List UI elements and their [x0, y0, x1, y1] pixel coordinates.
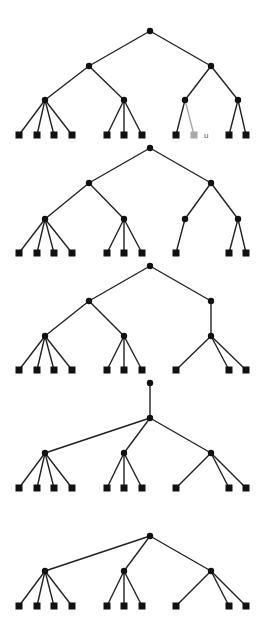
tree-edge	[107, 219, 124, 253]
leaf-node	[16, 367, 23, 374]
leaf-node	[173, 367, 180, 374]
tree-edge	[124, 571, 142, 606]
tree-edge	[107, 336, 124, 370]
tree-edge	[124, 336, 142, 370]
leaf-node	[139, 367, 146, 374]
tree-3	[16, 263, 250, 374]
leaf-node	[243, 250, 250, 257]
tree-edge	[89, 66, 124, 100]
leaf-node	[69, 367, 76, 374]
tree-edge	[229, 219, 238, 253]
leaf-node	[139, 603, 146, 610]
leaf-node	[243, 132, 250, 139]
internal-node	[121, 333, 127, 339]
tree-edge	[124, 219, 142, 253]
tree-edge	[211, 183, 238, 219]
tree-edge	[150, 536, 211, 571]
leaf-node	[226, 367, 233, 374]
leaf-node	[34, 485, 41, 492]
tree-edge	[45, 66, 89, 100]
internal-node	[182, 216, 188, 222]
tree-edge	[124, 536, 150, 571]
tree-edge	[211, 571, 246, 606]
tree-edge	[45, 183, 89, 219]
leaf-node	[104, 485, 111, 492]
tree-edge	[176, 571, 211, 606]
leaf-node	[16, 485, 23, 492]
tree-edge	[238, 100, 246, 135]
internal-node	[235, 97, 241, 103]
leaf-node	[121, 367, 128, 374]
tree-edge	[211, 336, 246, 370]
tree-edge	[211, 336, 229, 370]
tree-edge	[45, 418, 150, 453]
internal-node	[235, 216, 241, 222]
leaf-node	[34, 367, 41, 374]
internal-node	[42, 97, 48, 103]
tree-edge	[89, 148, 150, 183]
tree-5	[16, 533, 250, 610]
tree-edge	[185, 66, 211, 100]
leaf-node	[226, 250, 233, 257]
leaf-node	[69, 132, 76, 139]
leaf-node	[173, 132, 180, 139]
internal-node	[42, 568, 48, 574]
internal-node	[86, 63, 92, 69]
leaf-node	[226, 132, 233, 139]
tree-edge	[229, 100, 238, 135]
leaf-node	[34, 250, 41, 257]
leaf-node	[121, 485, 128, 492]
tree-2	[16, 145, 250, 257]
leaf-node	[121, 603, 128, 610]
tree-edge	[211, 66, 238, 100]
leaf-node	[34, 603, 41, 610]
tree-edge	[45, 301, 89, 336]
tree-edge	[107, 571, 124, 606]
leaf-node	[104, 603, 111, 610]
leaf-node	[139, 132, 146, 139]
internal-node	[208, 298, 214, 304]
tree-edge	[89, 301, 124, 336]
internal-node	[208, 333, 214, 339]
leaf-node	[51, 367, 58, 374]
internal-node	[147, 145, 153, 151]
tree-edge	[89, 183, 124, 219]
internal-node	[182, 97, 188, 103]
internal-node	[121, 568, 127, 574]
tree-edge	[150, 31, 211, 66]
leaf-node	[121, 132, 128, 139]
leaf-node	[173, 250, 180, 257]
tree-edge	[107, 453, 124, 488]
leaf-node	[51, 132, 58, 139]
tree-1: u	[16, 28, 250, 140]
tree-edge	[45, 536, 150, 571]
leaf-node	[51, 603, 58, 610]
internal-node	[147, 533, 153, 539]
leaf-node	[69, 250, 76, 257]
highlighted-leaf-node	[191, 132, 198, 139]
internal-node	[121, 450, 127, 456]
tree-edge	[107, 100, 124, 135]
tree-edge	[89, 266, 150, 301]
internal-node	[86, 298, 92, 304]
tree-edge	[176, 219, 185, 253]
tree-edge	[124, 418, 150, 453]
leaf-node	[104, 132, 111, 139]
leaf-node	[69, 603, 76, 610]
leaf-node	[243, 603, 250, 610]
leaf-node	[104, 250, 111, 257]
internal-node	[147, 380, 153, 386]
internal-node	[121, 216, 127, 222]
tree-edge	[124, 100, 142, 135]
leaf-node	[16, 132, 23, 139]
tree-edge	[124, 453, 142, 488]
tree-edge	[211, 453, 246, 488]
leaf-node	[121, 250, 128, 257]
internal-node	[147, 415, 153, 421]
internal-node	[208, 180, 214, 186]
internal-node	[86, 180, 92, 186]
leaf-node	[104, 367, 111, 374]
tree-edge	[211, 453, 229, 488]
internal-node	[208, 568, 214, 574]
tree-edge	[238, 219, 246, 253]
